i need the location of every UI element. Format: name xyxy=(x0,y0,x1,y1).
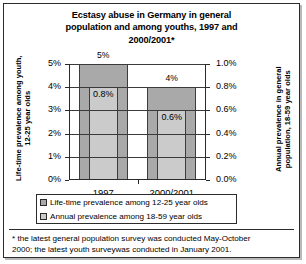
gridline xyxy=(69,110,206,111)
right-axis-tick xyxy=(206,134,210,135)
data-label-annual-prevalence: 0.6% xyxy=(152,113,192,122)
right-axis-tick-label: 0.8% xyxy=(216,82,250,91)
data-label-life-time-prevalence: 4% xyxy=(147,74,197,83)
chart-title: Ecstasy abuse in Germany in general popu… xyxy=(34,9,269,46)
right-axis-title-line-2: population, 18-59 year olds xyxy=(283,49,292,189)
left-axis-tick xyxy=(65,180,69,181)
right-axis-tick xyxy=(206,64,210,65)
left-axis-tick xyxy=(65,134,69,135)
legend-item-annual-prevalence: Annual prevalence among 18-59 year olds xyxy=(40,210,202,223)
gridline xyxy=(69,87,206,88)
left-axis-tick xyxy=(65,64,69,65)
chart-title-line-2: population and among youths, 1997 and xyxy=(34,21,269,33)
right-axis-tick-label: 0.6% xyxy=(216,105,250,114)
right-axis-tick xyxy=(206,87,210,88)
footnote-line-1: * the latest general population survey w… xyxy=(12,233,290,244)
legend-item-life-time-prevalence: Life-time prevalence among 12-25 year ol… xyxy=(40,196,208,209)
gridline xyxy=(69,64,206,65)
right-axis-tick xyxy=(206,180,210,181)
right-axis-title-line-1: Annual prevalence in general xyxy=(274,49,283,189)
right-axis-tick-label: 0.4% xyxy=(216,129,250,138)
left-axis-tick xyxy=(65,157,69,158)
right-axis-tick-label: 0.2% xyxy=(216,152,250,161)
plot-area: 0%1%2%3%4%5% 0.0%0.2%0.4%0.6%0.8%1.0% 19… xyxy=(69,64,206,180)
right-axis-title: Annual prevalence in general population,… xyxy=(274,49,292,189)
gridline xyxy=(69,157,206,158)
legend-item-label: Annual prevalence among 18-59 year olds xyxy=(50,212,202,221)
right-axis-tick xyxy=(206,157,210,158)
chart-legend: Life-time prevalence among 12-25 year ol… xyxy=(36,194,237,224)
footnote-divider xyxy=(9,229,294,230)
left-axis-title: Life-time prevalence among youth, 12-25 … xyxy=(14,48,32,188)
legend-item-label: Life-time prevalence among 12-25 year ol… xyxy=(50,198,208,207)
left-axis-tick xyxy=(65,110,69,111)
chart-footnote: * the latest general population survey w… xyxy=(12,233,290,255)
right-axis-tick-label: 0.0% xyxy=(216,175,250,184)
right-axis-tick-label: 1.0% xyxy=(216,59,250,68)
chart-title-line-1: Ecstasy abuse in Germany in general xyxy=(34,9,269,21)
gridline xyxy=(69,134,206,135)
data-label-annual-prevalence: 0.8% xyxy=(83,90,123,99)
chart-figure: Ecstasy abuse in Germany in general popu… xyxy=(0,0,306,264)
x-axis-tick xyxy=(138,180,139,184)
left-axis-tick xyxy=(65,87,69,88)
chart-title-line-3: 2000/2001* xyxy=(34,34,269,46)
legend-swatch-icon xyxy=(40,213,47,220)
left-axis-title-line-2: 12-25 year olds xyxy=(23,48,32,188)
left-axis-title-line-1: Life-time prevalence among youth, xyxy=(14,48,23,188)
data-label-life-time-prevalence: 5% xyxy=(78,51,128,60)
footnote-line-2: 2000; the latest youth surveywas conduct… xyxy=(12,244,290,255)
right-axis-tick xyxy=(206,110,210,111)
legend-swatch-icon xyxy=(40,199,47,206)
